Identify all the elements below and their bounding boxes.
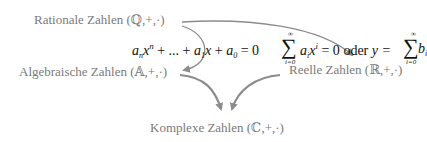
sum1-lower-limit: i=0	[285, 59, 295, 66]
node-real-numbers: Reelle Zahlen (ℝ,+,·)	[289, 63, 402, 76]
coef-b: b	[418, 41, 425, 56]
coef-a: a	[300, 43, 307, 58]
coef-a: a	[132, 43, 139, 58]
sigma-icon: ∑	[281, 36, 297, 58]
plus-sign: +	[211, 43, 226, 58]
node-rational-numbers: Rationale Zahlen (ℚ,+,·)	[34, 13, 165, 26]
coef-a1: a	[194, 43, 201, 58]
equals-zero: = 0	[318, 43, 343, 58]
sum2-lower-limit: i=0	[406, 59, 416, 66]
equals-zero: = 0	[237, 43, 259, 58]
sigma-icon: ∑	[403, 36, 419, 58]
node-complex-numbers: Komplexe Zahlen (ℂ,+,·)	[150, 121, 284, 134]
series-b-term: bi	[418, 42, 427, 58]
arrow-algebraic-to-complex	[180, 75, 221, 109]
arrow-real-to-complex	[232, 75, 280, 109]
series-body: aixi = 0 oder y =	[300, 42, 391, 60]
y-equals: y =	[372, 43, 391, 58]
number-systems-diagram: Rationale Zahlen (ℚ,+,·) Algebraische Za…	[0, 0, 427, 142]
node-algebraic-numbers: Algebraische Zahlen (𝔸,+,·)	[19, 65, 167, 78]
ellipsis-term: + ... +	[154, 43, 194, 58]
polynomial-equation: anxn + ... + a1x + a0 = 0	[132, 42, 259, 60]
oder-word: oder	[343, 43, 371, 58]
